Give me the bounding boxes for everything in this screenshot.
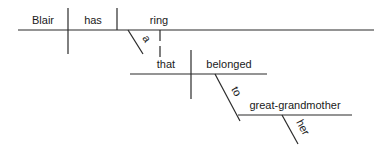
possessive-line <box>282 115 298 144</box>
word-subject: Blair <box>32 14 54 26</box>
article-modifier-line <box>128 30 143 54</box>
word-object: ring <box>150 14 168 26</box>
word-verb: has <box>84 14 102 26</box>
word-relative-pronoun: that <box>157 58 175 70</box>
word-prep-object: great-grandmother <box>249 99 340 111</box>
word-possessive: her <box>294 117 312 137</box>
sentence-diagram: Blair has ring a that belonged to great-… <box>0 0 374 158</box>
word-preposition: to <box>229 84 244 98</box>
word-article: a <box>140 33 154 45</box>
preposition-line <box>215 74 240 121</box>
word-relative-verb: belonged <box>206 58 251 70</box>
